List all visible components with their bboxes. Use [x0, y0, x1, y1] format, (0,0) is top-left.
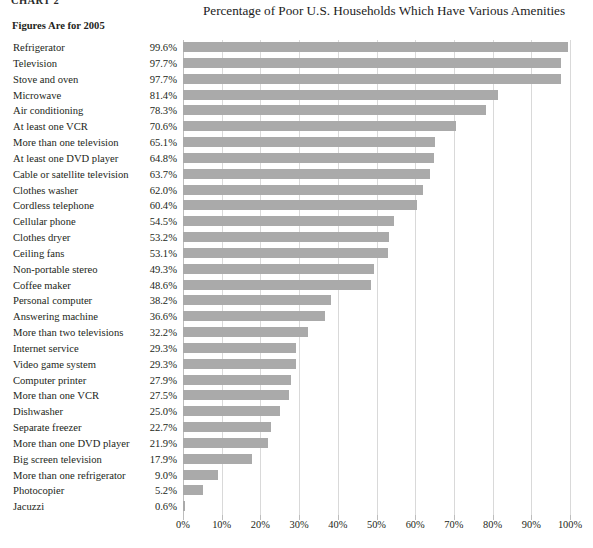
category-value-label: 53.1% [135, 248, 180, 260]
bar-row [183, 357, 570, 373]
category-label: Non-portable stereo [0, 264, 135, 276]
category-row: Air conditioning78.3% [0, 103, 180, 119]
category-label: Cellular phone [0, 216, 135, 228]
category-row: More than one refrigerator9.0% [0, 468, 180, 484]
category-label: Refrigerator [0, 42, 135, 54]
bar [183, 58, 561, 68]
category-value-label: 17.9% [135, 454, 180, 466]
category-value-label: 0.6% [135, 501, 180, 513]
category-value-label: 5.2% [135, 485, 180, 497]
bar-row [183, 56, 570, 72]
bar-row [183, 135, 570, 151]
category-value-label: 60.4% [135, 200, 180, 212]
bar [183, 137, 435, 147]
category-label: Cable or satellite television [0, 169, 135, 181]
bar [183, 470, 218, 480]
bar-row [183, 436, 570, 452]
bar [183, 359, 296, 369]
category-value-label: 97.7% [135, 58, 180, 70]
category-value-label: 38.2% [135, 295, 180, 307]
bar [183, 311, 325, 321]
category-label: Cordless telephone [0, 200, 135, 212]
category-row: More than one television65.1% [0, 135, 180, 151]
bar-row [183, 341, 570, 357]
category-label: Ceiling fans [0, 248, 135, 260]
bar-row [183, 325, 570, 341]
x-tick-label: 20% [251, 519, 270, 530]
category-value-label: 27.9% [135, 375, 180, 387]
category-row: Photocopier5.2% [0, 483, 180, 499]
category-label: Photocopier [0, 485, 135, 497]
category-value-label: 27.5% [135, 390, 180, 402]
category-label: Clothes washer [0, 185, 135, 197]
category-value-label: 65.1% [135, 137, 180, 149]
category-label: Dishwasher [0, 406, 135, 418]
bar [183, 248, 388, 258]
category-row: More than one DVD player21.9% [0, 436, 180, 452]
category-value-label: 9.0% [135, 470, 180, 482]
category-value-label: 99.6% [135, 42, 180, 54]
bar-row [183, 72, 570, 88]
category-label-column: Refrigerator99.6%Television97.7%Stove an… [0, 40, 180, 515]
x-tick-label: 10% [212, 519, 231, 530]
category-label: Separate freezer [0, 422, 135, 434]
category-value-label: 49.3% [135, 264, 180, 276]
category-row: Separate freezer22.7% [0, 420, 180, 436]
category-row: Big screen television17.9% [0, 452, 180, 468]
category-row: Refrigerator99.6% [0, 40, 180, 56]
category-value-label: 29.3% [135, 343, 180, 355]
bar-row [183, 388, 570, 404]
bar-row [183, 452, 570, 468]
category-row: Internet service29.3% [0, 341, 180, 357]
bar [183, 90, 498, 100]
category-row: Jacuzzi0.6% [0, 499, 180, 515]
chart-title: Percentage of Poor U.S. Households Which… [178, 3, 590, 19]
category-label: Video game system [0, 359, 135, 371]
bar [183, 485, 203, 495]
category-row: Clothes dryer53.2% [0, 230, 180, 246]
x-tick-label: 60% [406, 519, 425, 530]
bar-row [183, 278, 570, 294]
bar [183, 454, 252, 464]
category-row: Ceiling fans53.1% [0, 246, 180, 262]
category-value-label: 78.3% [135, 105, 180, 117]
bar-row [183, 499, 570, 515]
category-row: More than one VCR27.5% [0, 388, 180, 404]
category-row: Stove and oven97.7% [0, 72, 180, 88]
bar-row [183, 373, 570, 389]
bar-chart-figure: CHART 2 Percentage of Poor U.S. Househol… [0, 0, 593, 548]
category-value-label: 22.7% [135, 422, 180, 434]
category-label: Big screen television [0, 454, 135, 466]
bar-row [183, 119, 570, 135]
bar [183, 422, 271, 432]
category-value-label: 81.4% [135, 90, 180, 102]
category-label: Internet service [0, 343, 135, 355]
category-label: Coffee maker [0, 280, 135, 292]
category-row: Personal computer38.2% [0, 293, 180, 309]
bar [183, 105, 486, 115]
category-value-label: 25.0% [135, 406, 180, 418]
category-label: More than one VCR [0, 390, 135, 402]
bar-row [183, 420, 570, 436]
bar [183, 216, 394, 226]
category-row: Cellular phone54.5% [0, 214, 180, 230]
plot-area [183, 40, 570, 515]
bar-row [183, 483, 570, 499]
category-label: More than two televisions [0, 327, 135, 339]
bar [183, 200, 417, 210]
bar [183, 343, 296, 353]
x-tick-label: 40% [328, 519, 347, 530]
bar [183, 185, 423, 195]
x-tick-label: 80% [483, 519, 502, 530]
category-label: Answering machine [0, 311, 135, 323]
category-label: Computer printer [0, 375, 135, 387]
category-value-label: 62.0% [135, 185, 180, 197]
category-row: More than two televisions32.2% [0, 325, 180, 341]
category-label: Personal computer [0, 295, 135, 307]
category-row: Television97.7% [0, 56, 180, 72]
category-label: Television [0, 58, 135, 70]
bar [183, 264, 374, 274]
category-value-label: 97.7% [135, 74, 180, 86]
x-tick-label: 90% [522, 519, 541, 530]
category-row: Answering machine36.6% [0, 309, 180, 325]
